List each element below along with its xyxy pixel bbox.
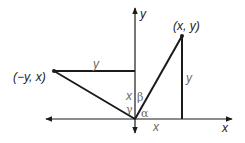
- vertical-right-label: y: [185, 71, 193, 85]
- x-axis-label: x: [221, 121, 229, 135]
- point-negy-x-label: (−y, x): [13, 70, 46, 84]
- point-xy: [180, 34, 184, 38]
- point-xy-label: (x, y): [173, 19, 200, 33]
- angle-gamma-label: γ: [126, 103, 133, 116]
- segment-origin-to-negy-x: [54, 71, 135, 119]
- vertical-x-label: x: [125, 89, 133, 103]
- angle-beta-label: β: [137, 91, 143, 104]
- rotation-diagram: y x (x, y) (−y, x) y y x x β γ α: [0, 0, 245, 143]
- horizontal-top-label: y: [92, 57, 100, 71]
- horizontal-x-label: x: [152, 120, 160, 134]
- angle-alpha-label: α: [141, 107, 149, 120]
- point-negy-x: [52, 69, 56, 73]
- y-axis-label: y: [139, 7, 147, 21]
